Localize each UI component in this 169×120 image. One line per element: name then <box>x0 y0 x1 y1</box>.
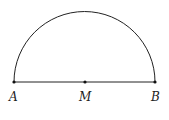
label-a: A <box>8 90 18 104</box>
label-b: B <box>150 90 160 104</box>
point-b <box>153 80 156 83</box>
label-m: M <box>78 90 92 104</box>
semicircle-arc <box>14 12 155 82</box>
point-a <box>12 80 15 83</box>
point-m <box>83 80 86 83</box>
semicircle-diagram: A M B <box>0 0 169 120</box>
